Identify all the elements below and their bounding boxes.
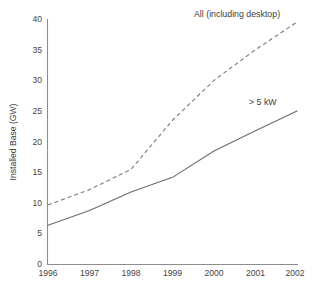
x-tick-label-2001: 2001 <box>246 268 265 278</box>
x-tick-label-1997: 1997 <box>80 268 99 278</box>
y-tick-label-15: 15 <box>32 167 42 177</box>
chart-canvas: 40 35 30 25 20 15 10 5 0 Installed Base … <box>0 0 315 293</box>
y-tick-label-35: 35 <box>32 45 42 55</box>
y-tick-label-40: 40 <box>32 14 42 24</box>
y-tick-label-5: 5 <box>37 228 42 238</box>
y-tick-label-20: 20 <box>32 137 42 147</box>
x-tick-label-1999: 1999 <box>163 268 182 278</box>
y-tick-label-10: 10 <box>32 198 42 208</box>
y-tick-label-25: 25 <box>32 106 42 116</box>
y-axis-title: Installed Base (GW) <box>8 103 18 180</box>
line-chart: 40 35 30 25 20 15 10 5 0 Installed Base … <box>0 0 315 293</box>
series-line-gt-5-kw <box>48 111 297 225</box>
x-tick-label-1998: 1998 <box>121 268 140 278</box>
x-tick-label-2000: 2000 <box>204 268 223 278</box>
annotation-all-including-desktop: All (including desktop) <box>194 9 280 19</box>
y-tick-label-30: 30 <box>32 75 42 85</box>
x-tick-label-1996: 1996 <box>38 268 57 278</box>
x-tick-label-2002: 2002 <box>285 268 304 278</box>
annotation-gt-5-kw: > 5 kW <box>249 97 277 107</box>
